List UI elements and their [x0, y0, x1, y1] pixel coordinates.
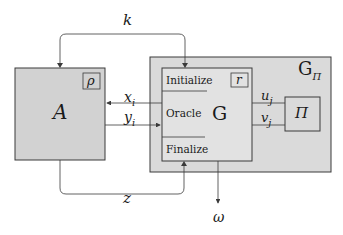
oracle-section: Oracle: [166, 108, 201, 119]
u-sub: j: [269, 95, 272, 106]
k-label: k: [123, 13, 132, 28]
game-label: G: [212, 104, 227, 123]
omega-label: ω: [213, 210, 224, 224]
outer-game-sub: Π: [312, 71, 321, 82]
z-label: z: [123, 191, 131, 206]
outer-game-label: GΠ: [298, 60, 321, 82]
finalize-section: Finalize: [166, 144, 208, 155]
outer-game-base: G: [298, 58, 312, 79]
u-label: uj: [261, 89, 272, 106]
y-label: yi: [124, 110, 135, 128]
rho-tag: ρ: [87, 74, 95, 87]
x-label: xi: [124, 90, 135, 108]
y-sub: i: [132, 117, 135, 128]
v-sub: j: [268, 117, 271, 128]
x-sub: i: [132, 97, 135, 108]
scheme-label: Π: [295, 106, 308, 121]
y-base: y: [124, 109, 132, 125]
r-tag: r: [236, 74, 242, 86]
v-label: vj: [261, 111, 271, 128]
x-base: x: [124, 89, 132, 105]
adversary-label: A: [53, 102, 67, 122]
initialize-section: Initialize: [166, 75, 213, 86]
